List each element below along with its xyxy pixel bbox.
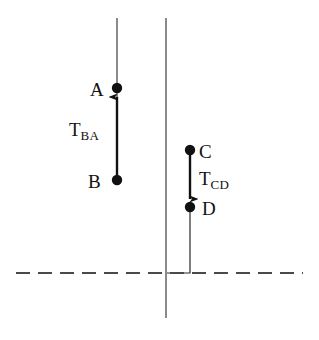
diagram-canvas: [0, 0, 319, 340]
event-label-d: D: [202, 199, 216, 218]
spacetime-diagram-figure: A B C D TBA TCD: [0, 0, 319, 340]
interval-label-tba-subscript: BA: [81, 128, 100, 143]
interval-label-tcd-subscript: CD: [211, 177, 230, 192]
event-dot-b: [112, 175, 122, 185]
interval-label-tcd-symbol: T: [199, 168, 211, 189]
interval-label-tba-symbol: T: [69, 119, 81, 140]
interval-label-tba: TBA: [69, 120, 99, 139]
event-dot-a: [112, 83, 122, 93]
event-dot-d: [185, 202, 195, 212]
event-dot-c: [185, 145, 195, 155]
event-label-c: C: [199, 142, 212, 161]
event-label-a: A: [90, 80, 104, 99]
event-label-b: B: [88, 172, 101, 191]
interval-label-tcd: TCD: [199, 169, 229, 188]
worldline-d-foot: [167, 207, 190, 273]
